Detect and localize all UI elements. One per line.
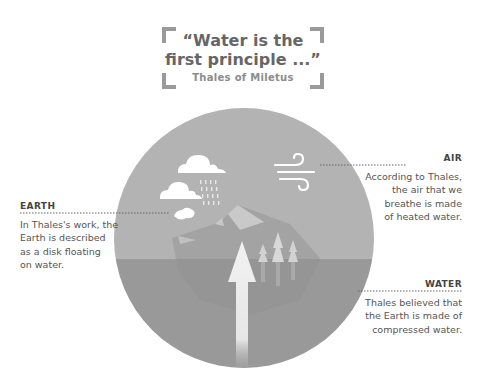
label-air-line: According to Thales, bbox=[340, 170, 462, 184]
label-water-line: compressed water. bbox=[340, 323, 462, 337]
label-air-title: AIR bbox=[340, 152, 462, 168]
label-water-title: WATER bbox=[340, 278, 462, 294]
globe bbox=[100, 100, 400, 379]
label-water-line: the Earth is made of bbox=[340, 309, 462, 323]
label-water-line: Thales believed that bbox=[340, 296, 462, 310]
label-earth-line: In Thales's work, the bbox=[20, 218, 130, 232]
label-air-line: breathe is made bbox=[340, 197, 462, 211]
label-earth-line: on water. bbox=[20, 258, 130, 272]
label-earth: EARTH In Thales's work, the Earth is des… bbox=[20, 200, 130, 272]
label-air-line: of heated water. bbox=[340, 210, 462, 224]
label-earth-line: as a disk floating bbox=[20, 245, 130, 259]
label-air-line: the air that we bbox=[340, 183, 462, 197]
label-water: WATER Thales believed that the Earth is … bbox=[340, 278, 462, 336]
label-earth-title: EARTH bbox=[20, 200, 130, 216]
label-air: AIR According to Thales, the air that we… bbox=[340, 152, 462, 224]
label-earth-line: Earth is described bbox=[20, 231, 130, 245]
